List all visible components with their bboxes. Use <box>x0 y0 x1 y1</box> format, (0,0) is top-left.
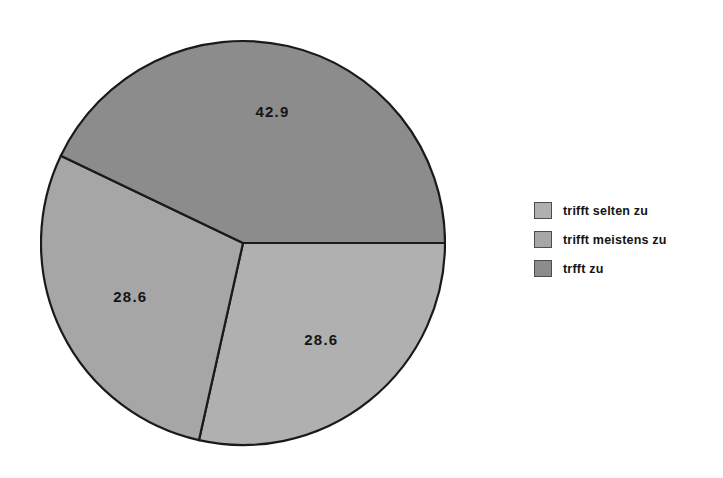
legend: trifft selten zu trifft meistens zu trff… <box>534 198 714 285</box>
legend-item-trfft-zu[interactable]: trfft zu <box>534 256 714 281</box>
legend-item-trifft-selten-zu[interactable]: trifft selten zu <box>534 198 714 223</box>
legend-swatch-icon <box>534 231 552 248</box>
pie-value-label-left: 28.6 <box>113 288 147 305</box>
pie-slices <box>41 41 445 445</box>
legend-item-label: trifft selten zu <box>563 204 648 218</box>
legend-item-trifft-meistens-zu[interactable]: trifft meistens zu <box>534 227 714 252</box>
pie-value-label-bottom-right: 28.6 <box>304 331 338 348</box>
legend-item-label: trifft meistens zu <box>563 233 667 247</box>
pie-plot-area: 28.6 28.6 42.9 <box>40 28 446 458</box>
pie-value-label-top: 42.9 <box>256 103 290 120</box>
legend-item-label: trfft zu <box>563 262 603 276</box>
legend-swatch-icon <box>534 202 552 219</box>
legend-swatch-icon <box>534 260 552 277</box>
pie-chart-figure: 28.6 28.6 42.9 trifft selten zu trifft m… <box>0 0 723 478</box>
pie-svg: 28.6 28.6 42.9 <box>40 28 446 458</box>
